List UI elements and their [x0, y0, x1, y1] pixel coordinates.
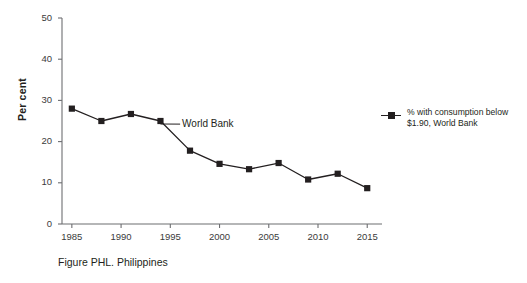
chart-legend: % with consumption below $1.90, World Ba…: [381, 107, 508, 129]
x-tick-marks: [72, 224, 367, 228]
x-tick-label: 1995: [150, 231, 190, 242]
legend-label: % with consumption below $1.90, World Ba…: [407, 107, 508, 129]
figure-caption: Figure PHL. Philippines: [58, 256, 168, 268]
annotation-world-bank: World Bank: [182, 118, 234, 129]
legend-label-line2: $1.90, World Bank: [407, 118, 478, 128]
data-point-marker: [69, 106, 75, 112]
data-point-marker: [335, 171, 341, 177]
x-tick-label: 2000: [200, 231, 240, 242]
data-point-marker: [276, 160, 282, 166]
y-tick-label: 0: [26, 218, 52, 229]
x-tick-label: 2015: [347, 231, 387, 242]
y-tick-label: 10: [26, 176, 52, 187]
x-tick-label: 2010: [298, 231, 338, 242]
data-point-marker: [305, 176, 311, 182]
y-tick-marks: [58, 18, 62, 224]
data-point-marker: [98, 118, 104, 124]
y-tick-label: 30: [26, 94, 52, 105]
data-point-marker: [216, 161, 222, 167]
data-point-marker: [364, 185, 370, 191]
x-tick-label: 1990: [101, 231, 141, 242]
data-point-marker: [246, 166, 252, 172]
data-point-marker: [157, 118, 163, 124]
x-tick-label: 1985: [52, 231, 92, 242]
y-tick-label: 20: [26, 135, 52, 146]
y-tick-label: 40: [26, 53, 52, 64]
y-tick-label: 50: [26, 12, 52, 23]
legend-marker-icon: [381, 110, 401, 122]
data-point-marker: [128, 111, 134, 117]
x-tick-label: 2005: [249, 231, 289, 242]
data-point-marker: [187, 148, 193, 154]
legend-label-line1: % with consumption below: [407, 107, 508, 117]
